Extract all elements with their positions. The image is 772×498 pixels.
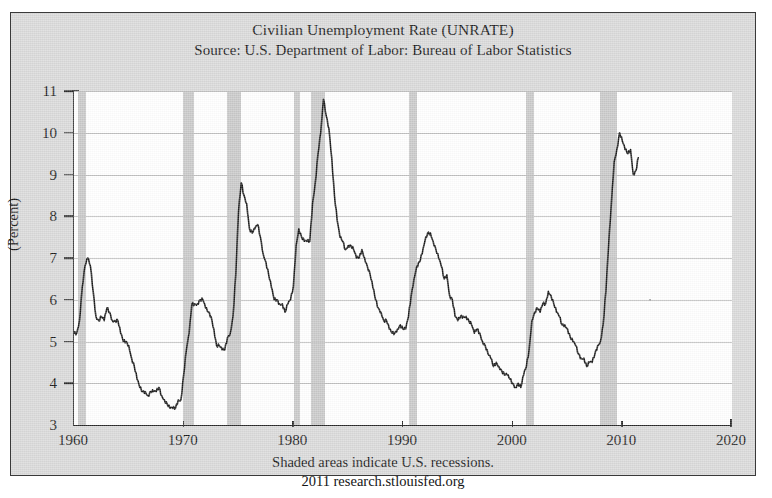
y-tick-label: 8: [23, 208, 57, 225]
y-tick-mark: [64, 382, 73, 384]
source-note: 2011 research.stlouisfed.org: [11, 472, 755, 491]
x-tick-mark: [621, 421, 622, 427]
paper-speck: [649, 299, 651, 301]
x-tick-label: 2010: [606, 432, 636, 449]
y-tick-label: 5: [23, 333, 57, 350]
x-tick-label: 1960: [58, 432, 88, 449]
x-tick-mark: [512, 421, 513, 427]
y-tick-label: 10: [23, 124, 57, 141]
y-tick-label: 3: [23, 417, 57, 434]
page-title: Civilian Unemployment Rate (UNRATE): [11, 19, 755, 40]
chart-title-block: Civilian Unemployment Rate (UNRATE) Sour…: [11, 19, 755, 61]
x-tick-mark: [292, 421, 293, 427]
chart-page: Civilian Unemployment Rate (UNRATE) Sour…: [0, 0, 772, 498]
chart-footer: Shaded areas indicate U.S. recessions. 2…: [11, 453, 755, 491]
chart-subtitle: Source: U.S. Department of Labor: Bureau…: [11, 40, 755, 61]
y-tick-label: 9: [23, 166, 57, 183]
x-tick-label: 2020: [716, 432, 746, 449]
y-tick-mark: [64, 215, 73, 217]
x-tick-label: 2000: [497, 432, 527, 449]
y-axis: 34567891011: [11, 91, 73, 425]
x-tick-label: 1970: [168, 432, 198, 449]
y-tick-mark: [64, 174, 73, 176]
y-tick-label: 11: [23, 83, 57, 100]
y-tick-label: 6: [23, 291, 57, 308]
series-line-unrate: [74, 91, 732, 425]
y-tick-label: 7: [23, 250, 57, 267]
chart-frame: Civilian Unemployment Rate (UNRATE) Sour…: [10, 12, 756, 476]
recession-note: Shaded areas indicate U.S. recessions.: [11, 453, 755, 472]
x-tick-mark: [402, 421, 403, 427]
x-tick-label: 1980: [277, 432, 307, 449]
x-tick-mark: [183, 421, 184, 427]
y-tick-mark: [64, 132, 73, 134]
y-tick-mark: [64, 257, 73, 259]
y-tick-label: 4: [23, 375, 57, 392]
y-tick-mark: [64, 299, 73, 301]
x-tick-label: 1990: [387, 432, 417, 449]
x-axis: 1960197019801990200020102020: [73, 427, 731, 453]
plot-area: [73, 91, 732, 426]
y-tick-mark: [64, 341, 73, 343]
